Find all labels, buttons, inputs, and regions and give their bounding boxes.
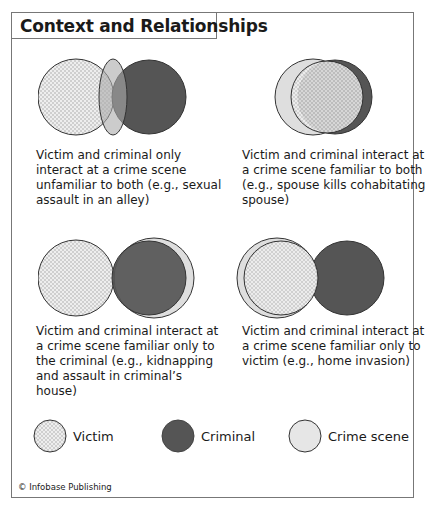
- legend-criminal-label: Criminal: [201, 429, 255, 444]
- caption-panel-1: Victim and criminal only interact at a c…: [36, 148, 226, 208]
- venn-familiar-both: [265, 52, 385, 142]
- figure-title: Context and Relationships: [20, 16, 268, 36]
- crime-scene-swatch-icon: [288, 419, 322, 453]
- caption-panel-2: Victim and criminal interact at a crime …: [242, 148, 429, 208]
- venn-familiar-criminal: [38, 233, 198, 323]
- caption-panel-3: Victim and criminal interact at a crime …: [36, 324, 226, 399]
- legend-criminal: Criminal: [161, 419, 255, 453]
- venn-unfamiliar-both: [38, 52, 188, 142]
- legend-crime-scene: Crime scene: [288, 419, 409, 453]
- criminal-swatch-icon: [161, 419, 195, 453]
- venn-familiar-victim: [233, 233, 393, 323]
- copyright-credit: © Infobase Publishing: [18, 482, 112, 492]
- victim-swatch-icon: [33, 419, 67, 453]
- legend-victim: Victim: [33, 419, 114, 453]
- caption-panel-4: Victim and criminal interact at a crime …: [242, 324, 429, 369]
- legend-victim-label: Victim: [73, 429, 114, 444]
- legend-crime-scene-label: Crime scene: [328, 429, 409, 444]
